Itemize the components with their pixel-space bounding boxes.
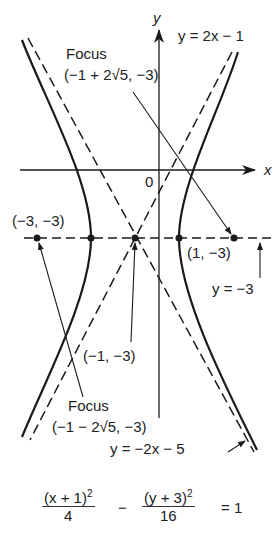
equation-term1: (x + 1)2 4 — [42, 489, 95, 524]
focus-right-coords: (−1 + 2√5, −3) — [64, 66, 159, 84]
vertex-right-label: (1, −3) — [187, 244, 231, 262]
term1-denominator: 4 — [42, 506, 95, 524]
equation-rhs: = 1 — [221, 499, 242, 517]
center-label: (−1, −3) — [83, 347, 136, 365]
focus-right-point — [231, 235, 238, 242]
focus-left-coords: (−1 − 2√5, −3) — [52, 418, 147, 436]
equation-operator: − — [118, 499, 127, 517]
focus-left-title: Focus — [68, 397, 109, 415]
y-axis-label: y — [153, 9, 161, 27]
focus-left-pointer — [39, 243, 83, 397]
focus-right-title: Focus — [66, 45, 107, 63]
term1-numerator: (x + 1)2 — [42, 489, 95, 506]
x-axis-label: x — [264, 161, 272, 179]
asymptote-pos-label: y = 2x − 1 — [178, 27, 244, 45]
origin-label: 0 — [145, 173, 153, 191]
center-point — [132, 235, 139, 242]
vertex-left-point — [88, 235, 95, 242]
axis-line-label: y = −3 — [212, 280, 254, 298]
vertex-left-label: (−3, −3) — [12, 212, 65, 230]
term2-numerator: (y + 3)2 — [142, 489, 195, 506]
focus-left-point — [34, 235, 41, 242]
term2-denominator: 16 — [142, 506, 195, 524]
asymptote-neg-pointer — [228, 441, 245, 452]
vertex-right-point — [176, 235, 183, 242]
equation-term2: (y + 3)2 16 — [142, 489, 195, 524]
asymptote-neg-label: y = −2x − 5 — [110, 440, 185, 458]
center-pointer — [131, 243, 135, 342]
